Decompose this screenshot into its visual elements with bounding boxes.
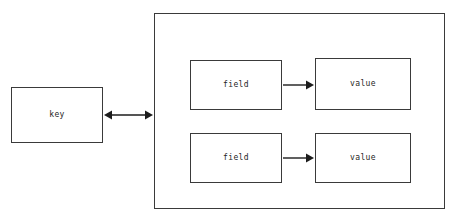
value-node-label: value [350, 80, 376, 88]
value-node[interactable]: value [315, 133, 411, 183]
field-node-label: field [223, 81, 249, 89]
key-node-label: key [49, 111, 65, 119]
value-node-label: value [350, 154, 376, 162]
value-node[interactable]: value [315, 58, 411, 110]
key-node[interactable]: key [11, 87, 103, 143]
field-node-label: field [223, 154, 249, 162]
field-node[interactable]: field [190, 133, 282, 183]
key-to-container-arrow [94, 105, 163, 125]
diagram-canvas: key field value field value [0, 0, 453, 221]
field-node[interactable]: field [190, 60, 282, 110]
